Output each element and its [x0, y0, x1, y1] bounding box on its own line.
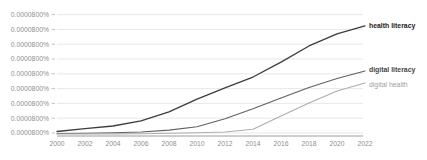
- y-tick-label: 0.0000800%: [11, 100, 49, 107]
- x-tick-label: 2016: [273, 140, 288, 147]
- y-tick-label: 0.0000800%: [11, 115, 49, 122]
- x-tick-label: 2002: [77, 140, 92, 147]
- series-label-digital-health[interactable]: digital health: [369, 81, 408, 89]
- series-label-digital-literacy[interactable]: digital literacy: [369, 66, 416, 74]
- x-tick-label: 2020: [329, 140, 344, 147]
- x-tick-label: 2004: [105, 140, 120, 147]
- x-tick-label: 2018: [301, 140, 316, 147]
- x-tick-label: 2022: [357, 140, 372, 147]
- y-tick-label: 0.0000800%: [11, 129, 49, 136]
- ngram-chart: 0.0000800%0.0000800%0.0000800%0.0000800%…: [0, 0, 427, 160]
- y-tick-label: 0.0000800%: [11, 55, 49, 62]
- ngram-chart-canvas: 0.0000800%0.0000800%0.0000800%0.0000800%…: [0, 0, 427, 160]
- y-tick-label: 0.0000800%: [11, 85, 49, 92]
- series-line-digital-literacy[interactable]: [57, 71, 365, 134]
- y-tick-label: 0.0000800%: [11, 41, 49, 48]
- y-tick-label: 0.0000800%: [11, 11, 49, 18]
- x-tick-label: 2000: [49, 140, 64, 147]
- x-tick-label: 2012: [217, 140, 232, 147]
- x-tick-label: 2006: [133, 140, 148, 147]
- series-line-health-literacy[interactable]: [57, 26, 365, 132]
- series-label-health-literacy[interactable]: health literacy: [369, 22, 416, 30]
- y-tick-label: 0.0000800%: [11, 26, 49, 33]
- x-tick-label: 2008: [161, 140, 176, 147]
- x-tick-label: 2010: [189, 140, 204, 147]
- y-tick-label: 0.0000800%: [11, 70, 49, 77]
- x-tick-label: 2014: [245, 140, 260, 147]
